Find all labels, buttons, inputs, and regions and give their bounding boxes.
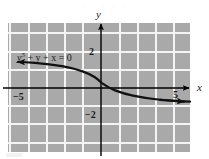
curve-path — [18, 62, 190, 102]
equation-rest: + y + x = 0 — [25, 52, 72, 63]
x-axis-label: x — [197, 82, 202, 93]
y-tick-label-neg2: −2 — [85, 110, 96, 120]
y-tick-label-2: 2 — [89, 47, 94, 57]
math-graph-figure: · · · · · — [0, 0, 209, 159]
equation-annotation: y5 + y + x = 0 — [17, 52, 72, 63]
footer-artifact — [6, 153, 22, 157]
x-tick-label-neg5: −5 — [13, 92, 24, 102]
x-tick-label-5: 5 — [173, 90, 178, 100]
y-axis-label: y — [96, 9, 101, 20]
curve-right-tail — [160, 100, 184, 102]
curve-y5-plus-y-plus-x — [0, 0, 209, 159]
